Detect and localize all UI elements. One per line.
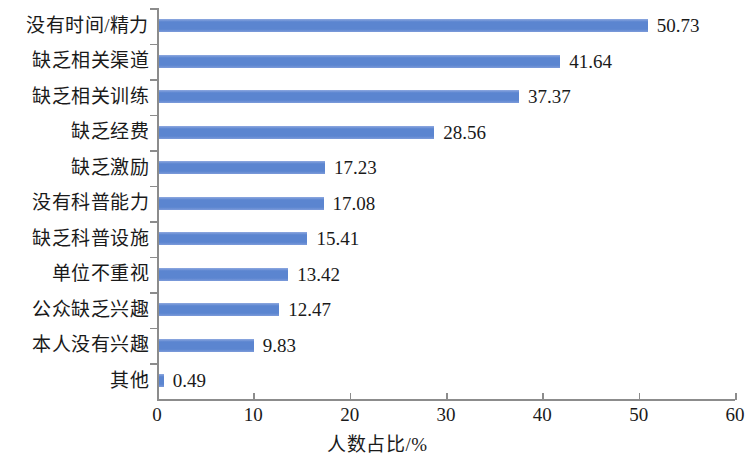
y-axis-tick bbox=[150, 328, 157, 330]
x-axis-tick bbox=[735, 393, 737, 400]
bar-container: 12.47 bbox=[159, 292, 755, 327]
bar-row: 本人没有兴趣9.83 bbox=[0, 328, 755, 363]
category-label: 没有科普能力 bbox=[0, 192, 155, 214]
category-label: 缺乏相关渠道 bbox=[0, 50, 155, 72]
category-label: 本人没有兴趣 bbox=[0, 334, 155, 356]
bar-container: 0.49 bbox=[159, 363, 755, 398]
bar-row: 缺乏相关渠道41.64 bbox=[0, 44, 755, 79]
category-label: 缺乏科普设施 bbox=[0, 228, 155, 250]
bar-value-label: 17.08 bbox=[333, 194, 376, 213]
x-axis-tick bbox=[446, 393, 448, 400]
bar bbox=[159, 197, 324, 210]
x-axis-tick bbox=[253, 393, 255, 400]
bar-row: 公众缺乏兴趣12.47 bbox=[0, 292, 755, 327]
bar bbox=[159, 161, 325, 174]
y-axis-tick bbox=[150, 363, 157, 365]
x-axis-tick bbox=[639, 393, 641, 400]
category-label: 没有时间/精力 bbox=[0, 15, 155, 37]
bar-value-label: 41.64 bbox=[569, 52, 612, 71]
category-label: 缺乏激励 bbox=[0, 157, 155, 179]
bar-value-label: 37.37 bbox=[528, 87, 571, 106]
bar-row: 缺乏科普设施15.41 bbox=[0, 221, 755, 256]
category-label: 缺乏经费 bbox=[0, 121, 155, 143]
bar-container: 9.83 bbox=[159, 328, 755, 363]
bar-value-label: 12.47 bbox=[288, 300, 331, 319]
category-label: 其他 bbox=[0, 370, 155, 392]
bar-row: 缺乏经费28.56 bbox=[0, 115, 755, 150]
y-axis-tick bbox=[150, 186, 157, 188]
bar-row: 缺乏激励17.23 bbox=[0, 150, 755, 185]
x-axis-tick-label: 60 bbox=[705, 404, 755, 426]
bar bbox=[159, 126, 434, 139]
bar-container: 17.08 bbox=[159, 186, 755, 221]
bar-value-label: 50.73 bbox=[657, 16, 700, 35]
x-axis-tick-label: 30 bbox=[416, 404, 476, 426]
category-label: 缺乏相关训练 bbox=[0, 86, 155, 108]
bar-value-label: 9.83 bbox=[263, 336, 296, 355]
bar bbox=[159, 55, 560, 68]
bar bbox=[159, 90, 519, 103]
bar-container: 50.73 bbox=[159, 8, 755, 43]
bar-row: 没有科普能力17.08 bbox=[0, 186, 755, 221]
bar-row: 单位不重视13.42 bbox=[0, 257, 755, 292]
category-label: 公众缺乏兴趣 bbox=[0, 299, 155, 321]
bar-container: 37.37 bbox=[159, 79, 755, 114]
bar-row: 没有时间/精力50.73 bbox=[0, 8, 755, 43]
y-axis-tick bbox=[150, 221, 157, 223]
bar bbox=[159, 374, 164, 387]
bar bbox=[159, 303, 279, 316]
y-axis-top-cap bbox=[150, 8, 158, 10]
x-axis-title: 人数占比/% bbox=[0, 429, 755, 456]
bar-row: 缺乏相关训练37.37 bbox=[0, 79, 755, 114]
x-axis-tick-label: 0 bbox=[127, 404, 187, 426]
bar-container: 15.41 bbox=[159, 221, 755, 256]
x-axis-tick-label: 10 bbox=[223, 404, 283, 426]
x-axis-tick-label: 50 bbox=[609, 404, 669, 426]
bar bbox=[159, 19, 648, 32]
y-axis-tick bbox=[150, 150, 157, 152]
bar bbox=[159, 268, 288, 281]
bar-container: 17.23 bbox=[159, 150, 755, 185]
x-axis-tick-label: 40 bbox=[512, 404, 572, 426]
bar-value-label: 0.49 bbox=[173, 371, 206, 390]
y-axis-tick bbox=[150, 115, 157, 117]
bar-value-label: 13.42 bbox=[297, 265, 340, 284]
y-axis-tick bbox=[150, 257, 157, 259]
y-axis-line bbox=[157, 8, 159, 400]
bar-container: 13.42 bbox=[159, 257, 755, 292]
y-axis-tick bbox=[150, 79, 157, 81]
y-axis-tick bbox=[150, 44, 157, 46]
x-axis-tick bbox=[350, 393, 352, 400]
bar-value-label: 17.23 bbox=[334, 158, 377, 177]
x-axis-tick bbox=[157, 393, 159, 400]
bar-value-label: 28.56 bbox=[443, 123, 486, 142]
bar-chart: 没有时间/精力50.73缺乏相关渠道41.64缺乏相关训练37.37缺乏经费28… bbox=[0, 0, 755, 460]
category-label: 单位不重视 bbox=[0, 263, 155, 285]
y-axis-tick bbox=[150, 292, 157, 294]
plot-area: 没有时间/精力50.73缺乏相关渠道41.64缺乏相关训练37.37缺乏经费28… bbox=[0, 0, 755, 403]
bar-row: 其他0.49 bbox=[0, 363, 755, 398]
bar bbox=[159, 232, 307, 245]
x-axis-tick-label: 20 bbox=[320, 404, 380, 426]
x-axis-tick bbox=[542, 393, 544, 400]
bar-container: 41.64 bbox=[159, 44, 755, 79]
bar bbox=[159, 339, 254, 352]
bar-container: 28.56 bbox=[159, 115, 755, 150]
bar-value-label: 15.41 bbox=[316, 229, 359, 248]
